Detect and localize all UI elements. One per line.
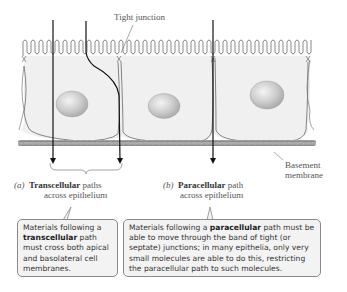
basement-membrane <box>18 140 316 146</box>
transcellular-callout-bold: transcellular <box>23 233 77 242</box>
nucleus-3 <box>250 81 284 109</box>
nucleus-2 <box>148 94 180 119</box>
transcellular-label: (a) Transcellular paths across epitheliu… <box>14 180 107 200</box>
paracellular-marker: (b) <box>163 180 174 190</box>
tight-junction-label: Tight junction <box>114 12 165 22</box>
basement-membrane-label-line2: membrane <box>285 170 323 180</box>
transcellular-label-bold: Transcellular <box>29 180 80 190</box>
transcellular-marker: (a) <box>14 180 25 190</box>
microvilli-apical-border <box>23 40 311 56</box>
paracellular-label: (b) Paracellular path across epithelium <box>163 180 243 200</box>
transcellular-callout: Materials following a transcellular path… <box>17 219 118 277</box>
paracellular-label-bold: Paracellular <box>178 180 225 190</box>
basement-membrane-leader <box>274 152 283 160</box>
paracellular-callout-prefix: Materials following a <box>129 223 210 232</box>
transcellular-label-line2: across epithelium <box>14 190 107 200</box>
basement-membrane-label: Basement membrane <box>285 160 323 180</box>
paracellular-label-line2: across epithelium <box>163 190 243 200</box>
transcellular-label-rest: paths <box>80 180 101 190</box>
nucleus-1 <box>56 91 88 117</box>
paracellular-label-rest: path <box>225 180 243 190</box>
paracellular-callout: Materials following a paracellular path … <box>123 219 321 277</box>
basement-membrane-label-line1: Basement <box>285 160 323 170</box>
transcellular-brace <box>50 163 122 174</box>
transcellular-callout-prefix: Materials following a <box>23 223 101 232</box>
paracellular-callout-bold: paracellular <box>210 223 261 232</box>
